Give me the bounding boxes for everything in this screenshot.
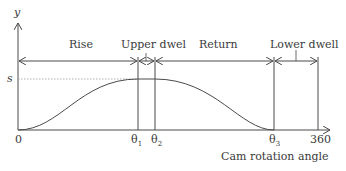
segment-dimension-line — [19, 50, 317, 61]
s-level: s — [7, 72, 138, 85]
tick-theta3: θ3 — [269, 133, 280, 148]
segment-label-rise: Rise — [69, 38, 93, 51]
segment-label-lower-dwell: Lower dwell — [270, 38, 339, 51]
segment-labels: Rise Upper dwel Return Lower dwell — [69, 38, 339, 51]
tick-360: 360 — [310, 133, 331, 146]
tick-theta1: θ1 — [131, 133, 142, 148]
origin-label: 0 — [15, 133, 22, 146]
x-axis-label: Cam rotation angle — [221, 150, 329, 163]
x-axis: 0 Cam rotation angle — [15, 130, 330, 163]
tick-theta2: θ2 — [151, 133, 162, 148]
x-tick-labels: θ1 θ2 θ3 360 — [131, 133, 331, 148]
cam-displacement-diagram: y 0 Cam rotation angle s — [0, 0, 346, 171]
segment-label-return: Return — [199, 38, 238, 51]
angle-markers — [138, 57, 318, 130]
displacement-curve — [18, 79, 274, 130]
y-axis: y — [13, 6, 21, 130]
segment-label-upper-dwell: Upper dwel — [121, 38, 187, 51]
y-axis-label: y — [13, 6, 21, 19]
s-label: s — [7, 72, 13, 85]
